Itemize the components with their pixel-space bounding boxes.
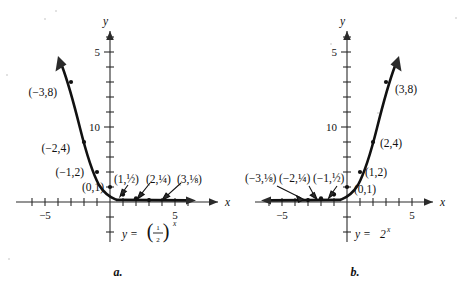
fraction-numerator: 1 (156, 224, 160, 232)
data-point (345, 185, 349, 189)
scan-speck (55, 10, 57, 12)
panel-b-ticks (269, 37, 412, 232)
fraction-denominator: 2 (156, 236, 160, 244)
y-axis-label: y (339, 15, 346, 28)
data-point (358, 170, 362, 174)
point-label-3-8: (3,8) (395, 83, 417, 96)
scan-speck (44, 18, 46, 20)
x-axis-label: x (439, 196, 446, 208)
equation-exponent: x (386, 225, 391, 234)
panel-a-caption: a. (114, 265, 123, 279)
paren-close: ) (163, 220, 170, 243)
data-point (147, 198, 151, 202)
point-label-2-quarter: (2,¼) (146, 173, 171, 186)
panel-a-leader-lines (120, 183, 181, 200)
data-point (82, 140, 86, 144)
panel-b-caption: b. (351, 265, 360, 279)
paren-open: ( (147, 220, 154, 243)
data-point (108, 185, 112, 189)
x-tick-label-5: 5 (409, 209, 415, 221)
panel-a-graph: −5 5 5 10 x y (0, 0, 237, 287)
curve-arrowhead-upper (56, 56, 67, 72)
y-axis-arrowhead (106, 31, 114, 40)
point-label-neg2-4: (−2,4) (41, 142, 70, 155)
y-tick-label-5: 5 (95, 46, 101, 58)
panel-b-equation: y = 2 x (354, 225, 391, 241)
equation-exponent: x (172, 219, 177, 228)
point-label-neg3-eighth: (−3,⅛) (245, 172, 277, 185)
curve-arrowhead-upper (391, 56, 402, 72)
point-label-neg1-2: (−1,2) (55, 166, 84, 179)
point-label-neg3-8: (−3,8) (28, 86, 57, 99)
data-point (69, 80, 73, 84)
y-axis-label: y (102, 15, 109, 28)
x-tick-label-neg5: −5 (39, 209, 51, 221)
equation-base: 2 (380, 228, 386, 240)
y-tick-label-10: 10 (326, 121, 338, 133)
data-point (384, 80, 388, 84)
point-label-1-half: (1,½) (114, 173, 139, 186)
x-tick-label-neg5: −5 (276, 209, 288, 221)
point-label-1-2: (1,2) (365, 166, 387, 179)
scan-speck (330, 43, 332, 45)
point-label-0-1: (0,1) (354, 183, 376, 196)
y-tick-label-5: 5 (332, 46, 338, 58)
scan-speck (6, 74, 8, 76)
point-label-0-1: (0,1) (82, 181, 104, 194)
curve-arrowhead-tail (261, 196, 271, 204)
panel-b-graph: −5 5 5 10 x y (237, 0, 474, 287)
scan-speck (377, 112, 379, 114)
data-point (95, 170, 99, 174)
exponential-functions-figure: −5 5 5 10 x y (0, 0, 474, 287)
data-point (371, 140, 375, 144)
curve-arrowhead-tail (186, 196, 196, 204)
equation-lhs: y = (121, 228, 138, 241)
equation-lhs: y = (354, 228, 371, 241)
scan-speck (8, 258, 10, 260)
scan-speck (455, 17, 457, 19)
data-point (319, 196, 323, 200)
y-tick-label-10: 10 (89, 121, 101, 133)
point-label-neg2-quarter: (−2,¼) (279, 172, 311, 185)
point-label-2-4: (2,4) (380, 137, 402, 150)
panel-a-equation: y = ( 1 2 ) x (121, 219, 177, 244)
point-label-neg1-half: (−1,½) (313, 172, 345, 185)
point-label-3-eighth: (3,⅛) (177, 173, 202, 186)
data-point (306, 198, 310, 202)
x-axis-label: x (224, 196, 231, 208)
x-axis-arrowhead (424, 198, 433, 206)
y-axis-arrowhead (343, 31, 351, 40)
x-axis-arrowhead (209, 198, 218, 206)
